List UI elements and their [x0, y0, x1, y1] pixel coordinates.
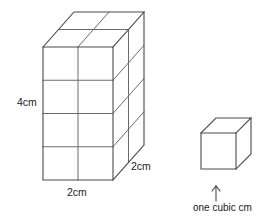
prism-width-label: 2cm	[67, 187, 87, 198]
unit-cube-caption: one cubic cm	[193, 203, 252, 213]
up-arrow-icon	[212, 186, 220, 201]
unit-cube-group	[201, 118, 251, 169]
unit-cube-front-face	[201, 133, 236, 169]
figure-root: 4cm 2cm 2cm one cubic cm	[0, 0, 280, 218]
prism-depth-label: 2cm	[131, 161, 151, 172]
large-prism-group	[43, 12, 144, 180]
geometry-illustration	[0, 0, 280, 218]
prism-height-label: 4cm	[17, 97, 37, 108]
